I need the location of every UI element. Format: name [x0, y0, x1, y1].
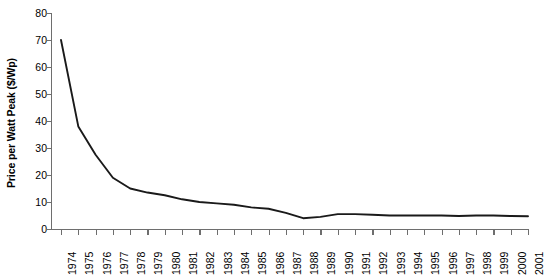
x-tick-label: 1981 — [187, 235, 199, 275]
x-tick-label: 1999 — [498, 235, 510, 275]
x-tick-mark — [442, 230, 443, 235]
x-tick-mark — [113, 230, 114, 235]
x-tick-label: 1989 — [325, 235, 337, 275]
x-tick-mark — [182, 230, 183, 235]
x-tick-label: 1985 — [256, 235, 268, 275]
x-tick-mark — [511, 230, 512, 235]
x-tick-mark — [372, 230, 373, 235]
x-tick-mark — [217, 230, 218, 235]
x-tick-label: 1980 — [170, 235, 182, 275]
x-tick-mark — [355, 230, 356, 235]
y-tick-mark — [46, 94, 51, 95]
y-tick-mark — [46, 202, 51, 203]
x-tick-label: 1974 — [66, 235, 78, 275]
x-tick-mark — [130, 230, 131, 235]
x-tick-label: 1996 — [447, 235, 459, 275]
x-tick-label: 1997 — [464, 235, 476, 275]
x-tick-label: 1978 — [135, 235, 147, 275]
y-tick-mark — [46, 67, 51, 68]
x-tick-label: 1994 — [412, 235, 424, 275]
x-tick-label: 1982 — [204, 235, 216, 275]
x-tick-mark — [199, 230, 200, 235]
x-tick-label: 1992 — [377, 235, 389, 275]
x-tick-label: 2000 — [516, 235, 528, 275]
x-tick-mark — [96, 230, 97, 235]
x-tick-label: 1983 — [222, 235, 234, 275]
y-tick-mark — [46, 175, 51, 176]
x-tick-label: 1975 — [83, 235, 95, 275]
x-tick-mark — [61, 230, 62, 235]
x-tick-mark — [78, 230, 79, 235]
x-tick-mark — [147, 230, 148, 235]
x-tick-label: 1986 — [274, 235, 286, 275]
x-tick-label: 1993 — [395, 235, 407, 275]
x-tick-label: 1984 — [239, 235, 251, 275]
x-tick-label: 1977 — [118, 235, 130, 275]
x-tick-label: 1991 — [360, 235, 372, 275]
x-tick-mark — [269, 230, 270, 235]
x-tick-label: 1976 — [101, 235, 113, 275]
y-tick-mark — [46, 40, 51, 41]
x-tick-mark — [424, 230, 425, 235]
x-tick-mark — [234, 230, 235, 235]
data-series-line — [0, 0, 544, 280]
chart-figure: Price per Watt Peak ($/Wp) 0102030405060… — [0, 0, 544, 280]
x-tick-mark — [459, 230, 460, 235]
x-tick-label: 1979 — [152, 235, 164, 275]
x-tick-mark — [407, 230, 408, 235]
x-tick-mark — [390, 230, 391, 235]
x-tick-mark — [303, 230, 304, 235]
y-tick-mark — [46, 229, 51, 230]
x-tick-label: 1990 — [343, 235, 355, 275]
y-tick-mark — [46, 148, 51, 149]
x-tick-label: 2001 — [533, 235, 544, 275]
x-tick-mark — [528, 230, 529, 235]
y-tick-mark — [46, 13, 51, 14]
x-tick-mark — [493, 230, 494, 235]
x-tick-mark — [476, 230, 477, 235]
x-tick-mark — [251, 230, 252, 235]
x-tick-mark — [320, 230, 321, 235]
x-tick-mark — [286, 230, 287, 235]
x-tick-mark — [338, 230, 339, 235]
x-tick-label: 1988 — [308, 235, 320, 275]
price-line-path — [61, 40, 528, 218]
x-tick-mark — [165, 230, 166, 235]
x-tick-label: 1998 — [481, 235, 493, 275]
x-tick-label: 1987 — [291, 235, 303, 275]
x-tick-label: 1995 — [429, 235, 441, 275]
y-tick-mark — [46, 121, 51, 122]
